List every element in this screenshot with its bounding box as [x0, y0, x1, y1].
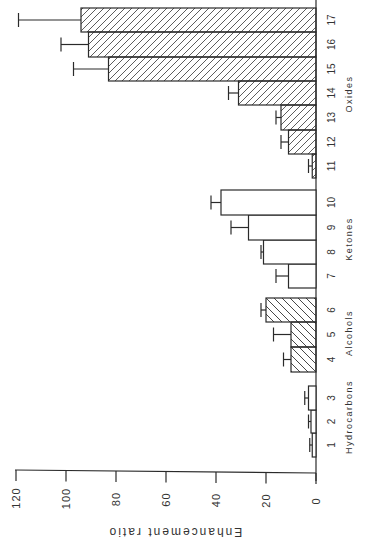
- category-label-6: 6: [326, 307, 337, 313]
- group-label-ketones: Ketones: [344, 217, 354, 261]
- value-tick-label: 60: [160, 492, 172, 506]
- category-label-15: 15: [326, 63, 337, 75]
- value-tick-label: 0: [310, 497, 322, 504]
- bar-6: [266, 298, 316, 322]
- category-label-14: 14: [326, 87, 337, 99]
- bar-5: [291, 322, 316, 347]
- value-tick-label: 120: [10, 487, 22, 508]
- category-label-17: 17: [326, 14, 337, 26]
- category-label-11: 11: [326, 160, 337, 171]
- group-label-oxides: Oxides: [344, 75, 354, 112]
- category-label-4: 4: [326, 356, 337, 362]
- bar-12: [289, 130, 317, 154]
- category-label-1: 1: [326, 442, 337, 448]
- bar-16: [89, 32, 317, 57]
- category-label-10: 10: [326, 197, 337, 209]
- bar-8: [264, 240, 317, 264]
- value-tick-label: 40: [210, 493, 222, 507]
- bar-chart: 020406080100120Enhancement ratio12345678…: [0, 0, 365, 550]
- bar-13: [281, 105, 316, 130]
- category-label-7: 7: [326, 273, 337, 279]
- bar-15: [109, 57, 317, 81]
- bar-4: [291, 347, 316, 372]
- category-label-3: 3: [326, 395, 337, 401]
- category-label-9: 9: [326, 224, 337, 230]
- bar-9: [249, 215, 317, 240]
- category-label-13: 13: [326, 112, 337, 124]
- bar-17: [81, 8, 316, 32]
- group-label-hydrocarbons: Hydrocarbons: [344, 380, 354, 454]
- value-tick-label: 80: [110, 492, 122, 506]
- bars: [19, 8, 317, 457]
- category-label-12: 12: [326, 136, 337, 148]
- bar-14: [239, 81, 317, 105]
- category-label-16: 16: [326, 39, 337, 51]
- category-label-2: 2: [326, 418, 337, 424]
- bar-1: [312, 433, 316, 457]
- bar-10: [221, 190, 316, 215]
- bar-2: [311, 410, 316, 433]
- bar-11: [312, 154, 316, 178]
- bar-7: [289, 264, 317, 288]
- category-label-8: 8: [326, 249, 337, 255]
- value-axis-title: Enhancement ratio: [108, 525, 243, 539]
- bar-3: [309, 386, 317, 410]
- group-label-alcohols: Alcohols: [344, 310, 354, 356]
- value-tick-label: 20: [260, 493, 272, 507]
- category-label-5: 5: [326, 331, 337, 337]
- value-tick-label: 100: [60, 488, 72, 509]
